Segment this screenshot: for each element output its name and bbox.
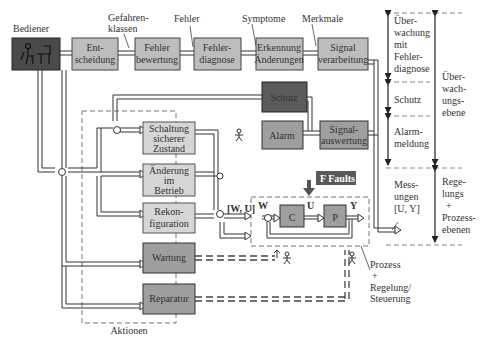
level-ueberwachung-line5: diagnose: [394, 63, 430, 74]
process-annotation-line2: +: [372, 270, 378, 281]
entscheidung-line2: scheidung: [75, 54, 116, 65]
schaltung-line3: Zustand: [153, 143, 185, 154]
operator-label: Bediener: [13, 23, 50, 34]
person-icon-wartung: [283, 252, 291, 264]
alarm-label: Alarm: [269, 130, 295, 141]
level-regelung-line3: +: [446, 200, 452, 211]
measurements-line1: Mess-: [394, 179, 418, 190]
process-annotation-line1: Prozess: [370, 259, 401, 270]
signalverarbeitung-line1: Signal: [330, 42, 356, 53]
person-icon-alarm: [235, 129, 243, 141]
reparatur-label: Reparatur: [149, 293, 189, 304]
faults-arrow: [303, 180, 315, 196]
y-label: Y: [350, 200, 358, 211]
level-ueberwachung-line2: wachung: [394, 27, 430, 38]
measurements-line3: [U, Y]: [394, 203, 420, 214]
wu-label: [W, U]: [227, 203, 255, 214]
level-alarm-line2: meldung: [394, 138, 429, 149]
signalauswertung-line2: auswertung: [321, 135, 367, 146]
level-ueberwachungsebene-line3: ungs-: [442, 95, 464, 106]
wartung-label: Wartung: [152, 252, 186, 263]
level-regelung-line1: Rege-: [442, 176, 466, 187]
plant-label: P: [332, 212, 338, 223]
manual-paths: [195, 250, 349, 301]
level-ueberwachungsebene-line1: Über-: [442, 71, 465, 82]
erkennung-line2: Änderungen: [254, 54, 303, 65]
rekonfiguration-line1: Rekon-: [154, 206, 183, 217]
u-label: U: [307, 200, 314, 211]
symptome-annotation: Symptome: [242, 13, 286, 24]
aenderung-line3: Betrieb: [154, 185, 183, 196]
faults-label: F Faults: [320, 173, 355, 184]
fault-management-diagram: Bediener Ent- scheidung Fehler bewertung…: [0, 0, 488, 343]
controller-label: C: [289, 212, 296, 223]
operator-block[interactable]: [12, 38, 60, 70]
level-ueberwachung-line1: Über-: [394, 15, 417, 26]
process-annotation-line4: Steuerung: [370, 293, 411, 304]
process-annotation-line3: Regelung/: [370, 282, 411, 293]
level-ueberwachungsebene-line2: wach-: [442, 83, 466, 94]
level-ueberwachung-line3: mit: [394, 39, 408, 50]
level-regelung-line5: ebenen: [442, 224, 470, 235]
wartung-arrow-up: [274, 250, 280, 258]
level-ueberwachungsebene-line4: ebene: [442, 107, 466, 118]
schutz-label: Schutz: [270, 92, 298, 103]
fehlerbewertung-line1: Fehler: [144, 42, 170, 53]
signalverarbeitung-line2: verarbeitung: [318, 54, 369, 65]
level-schutz: Schutz: [394, 94, 422, 105]
level-regelung-line4: Prozess-: [442, 212, 476, 223]
fehler-annotation: Fehler: [174, 13, 200, 24]
merkmale-annotation: Merkmale: [302, 13, 344, 24]
gefahrenklassen-line2: klassen: [108, 23, 137, 34]
fehlerdiagnose-line1: Fehler-: [203, 42, 232, 53]
fehlerdiagnose-line2: diagnose: [199, 54, 235, 65]
level-ueberwachung-line4: Fehler-: [394, 51, 423, 62]
fehlerbewertung-line2: bewertung: [136, 54, 178, 65]
level-alarm-line1: Alarm-: [394, 126, 423, 137]
entscheidung-line1: Ent-: [86, 42, 103, 53]
signalauswertung-line1: Signal-: [330, 124, 359, 135]
measurements-line2: ungen: [394, 191, 418, 202]
erkennung-line1: Erkennung: [257, 42, 301, 53]
rekonfiguration-line2: figuration: [149, 218, 188, 229]
level-regelung-line2: lungs: [442, 188, 464, 199]
w-label: W: [258, 200, 268, 211]
actions-title: Aktionen: [110, 325, 147, 336]
gefahrenklassen-line1: Gefahren-: [108, 12, 149, 23]
